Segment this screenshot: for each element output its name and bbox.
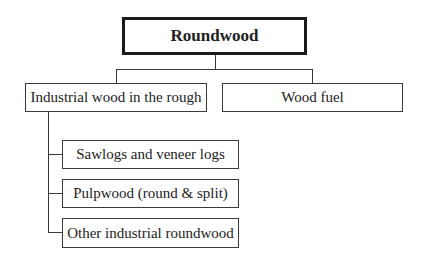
node-pulpwood: Pulpwood (round & split): [62, 179, 239, 208]
node-roundwood: Roundwood: [122, 17, 307, 55]
connector-branch-other: [48, 232, 63, 233]
node-label: Industrial wood in the rough: [31, 89, 202, 106]
connector-industrial-trunk: [48, 112, 49, 233]
connector-to-woodfuel: [312, 69, 313, 84]
connector-root-down: [215, 55, 216, 69]
node-label: Wood fuel: [281, 89, 344, 106]
node-sawlogs: Sawlogs and veneer logs: [62, 140, 239, 169]
connector-branch-pulpwood: [48, 193, 63, 194]
connector-branch-sawlogs: [48, 154, 63, 155]
node-wood-fuel: Wood fuel: [222, 83, 403, 112]
node-label: Roundwood: [171, 26, 259, 46]
node-label: Pulpwood (round & split): [73, 185, 228, 202]
node-label: Sawlogs and veneer logs: [76, 146, 225, 163]
connector-to-industrial: [116, 69, 117, 84]
node-other-industrial: Other industrial roundwood: [62, 218, 239, 248]
node-label: Other industrial roundwood: [67, 225, 234, 242]
node-industrial-wood: Industrial wood in the rough: [25, 83, 207, 112]
connector-level1-bar: [116, 69, 313, 70]
